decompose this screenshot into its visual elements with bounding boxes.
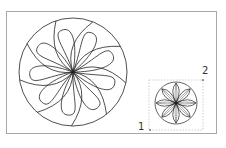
handle-point-2[interactable]	[202, 79, 204, 81]
large-rosette[interactable]	[19, 18, 127, 126]
handle-label-2: 2	[202, 66, 208, 76]
drawing-svg	[0, 0, 226, 148]
handle-point-1[interactable]	[149, 129, 151, 131]
handle-label-1: 1	[138, 122, 144, 132]
small-rosette[interactable]	[155, 82, 197, 124]
